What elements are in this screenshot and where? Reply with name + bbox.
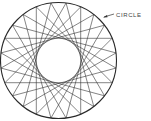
chord-line [66, 3, 94, 107]
chord-line [23, 14, 51, 118]
chord-line [12, 68, 116, 96]
chord-line [5, 38, 81, 114]
circle-chord-diagram: CIRCLE [0, 0, 151, 121]
chord-line [36, 38, 112, 114]
leader-arrowhead [103, 15, 108, 18]
chord-line [5, 7, 81, 83]
chord-line [1, 68, 105, 96]
callout: CIRCLE [103, 12, 142, 18]
chord-lines [1, 3, 116, 118]
chord-line [36, 7, 112, 83]
chord-line [12, 25, 116, 53]
circle-label: CIRCLE [116, 12, 142, 18]
chord-line [23, 3, 51, 107]
outer-circle [1, 3, 117, 119]
chord-line [1, 25, 105, 53]
chord-line [66, 14, 94, 118]
